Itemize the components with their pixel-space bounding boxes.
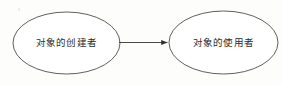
node-label-creator: 对象的创建者: [13, 38, 120, 48]
diagram-canvas: 对象的创建者 对象的使用者: [0, 0, 282, 85]
node-label-user: 对象的使用者: [169, 38, 278, 48]
scan-speck: [18, 8, 20, 11]
